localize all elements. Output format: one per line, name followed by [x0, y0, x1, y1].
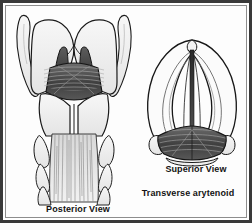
- inferior-cornu-right: [99, 136, 114, 168]
- caption-superior-view: Superior View: [140, 164, 246, 174]
- figure-root: Posterior View Superior View Transverse …: [0, 0, 252, 223]
- superior-view-group: [148, 40, 237, 166]
- caption-posterior-view: Posterior View: [20, 204, 136, 214]
- posterior-view-group: [17, 15, 131, 205]
- caption-transverse-arytenoid: Transverse arytenoid: [124, 188, 246, 198]
- glottis-rima: [190, 50, 194, 138]
- illustration-plate: Posterior View Superior View Transverse …: [6, 6, 246, 217]
- inferior-cornu-left: [34, 136, 49, 168]
- larynx-illustration-canvas: [6, 6, 246, 217]
- trachea: [50, 134, 99, 202]
